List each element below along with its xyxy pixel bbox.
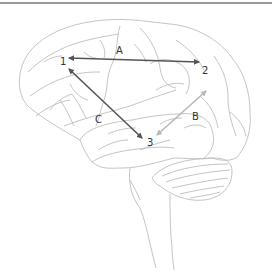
cerebellum xyxy=(152,158,232,200)
cerebrum-outline xyxy=(19,19,250,168)
node-label-3: 3 xyxy=(147,138,153,148)
connection-arrow-a xyxy=(69,58,199,62)
node-label-1: 1 xyxy=(60,57,66,67)
connection-arrow-c xyxy=(69,69,142,138)
connection-label-b: B xyxy=(192,112,199,122)
brainstem xyxy=(129,168,174,270)
brain-diagram xyxy=(0,0,272,279)
connection-label-c: C xyxy=(95,115,102,125)
node-label-2: 2 xyxy=(202,66,208,76)
connection-label-a: A xyxy=(116,46,123,56)
